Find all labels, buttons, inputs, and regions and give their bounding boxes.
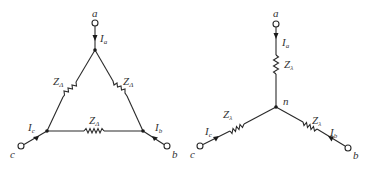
wye-neutral-label: n	[283, 95, 289, 107]
wye-terminal-b-label: b	[353, 149, 359, 161]
wye-current-a-label: Ia	[281, 36, 290, 50]
wye-terminal-a[interactable]	[273, 21, 279, 27]
delta-current-arrow-a	[93, 35, 98, 41]
delta-impedance-right-label: ZΔ	[123, 75, 133, 89]
delta-terminal-c-label: c	[10, 148, 15, 160]
delta-terminal-c[interactable]	[18, 143, 24, 149]
delta-impedance-right	[95, 50, 143, 131]
wye-current-arrow-a	[274, 33, 279, 39]
wye-impedance-a-label: Zλ	[284, 58, 293, 72]
delta-terminal-b[interactable]	[164, 143, 170, 149]
delta-impedance-left-label: ZΔ	[53, 75, 63, 89]
delta-terminal-b-label: b	[172, 148, 178, 160]
wye-impedance-b-label: Zλ	[312, 114, 321, 128]
wye-impedance-c-label: Zλ	[223, 108, 232, 122]
wye-current-c-label: Ic	[204, 125, 213, 139]
delta-node-left	[45, 129, 49, 133]
wye-terminal-a-label: a	[273, 7, 279, 19]
wye-terminal-b[interactable]	[345, 145, 351, 151]
wye-terminal-c[interactable]	[197, 143, 203, 149]
wye-neutral-node	[274, 105, 278, 109]
wye-current-b-label: Ib	[329, 126, 338, 140]
wye-impedance-c	[203, 107, 276, 145]
delta-current-b-label: Ib	[154, 121, 163, 135]
delta-terminal-a[interactable]	[92, 20, 98, 26]
wye-network: n a c b Ia Ic Ib Zλ Zλ Zλ	[190, 7, 359, 161]
wye-impedance-b	[276, 107, 345, 146]
delta-node-top	[93, 48, 97, 52]
delta-impedance-left	[47, 50, 95, 131]
wye-terminal-c-label: c	[190, 148, 195, 160]
delta-impedance-bottom-label: ZΔ	[89, 114, 99, 128]
delta-current-a-label: Ia	[99, 32, 108, 46]
delta-terminal-a-label: a	[92, 7, 98, 19]
delta-wye-diagram: a c b Ia Ic Ib ZΔ ZΔ ZΔ	[0, 0, 369, 170]
delta-network: a c b Ia Ic Ib ZΔ ZΔ ZΔ	[10, 7, 178, 160]
delta-current-c-label: Ic	[27, 121, 36, 135]
delta-node-right	[141, 129, 145, 133]
delta-impedance-bottom	[47, 129, 143, 134]
